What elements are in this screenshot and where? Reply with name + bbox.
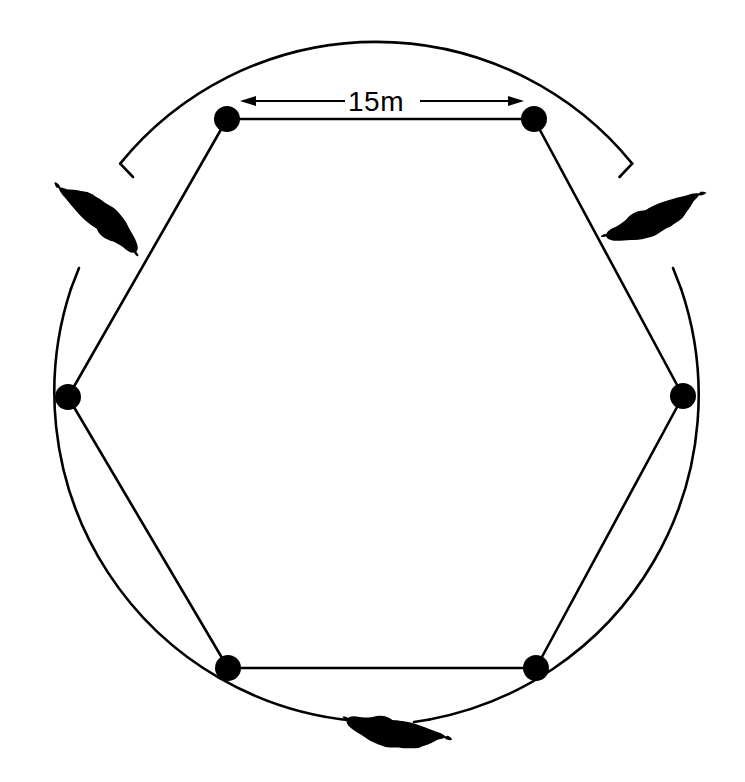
- circle-arc-right-lower: [430, 289, 699, 720]
- hexagon-circle-figure: 15m: [0, 0, 745, 782]
- blob-bottom[interactable]: [342, 714, 453, 750]
- inscribed-hexagon: [68, 119, 683, 668]
- circle-stub-ur-top: [620, 164, 633, 177]
- dimension-label-15m: 15m: [348, 86, 404, 117]
- circle-stub-ul-top: [120, 164, 133, 177]
- vertex-right-dot[interactable]: [670, 383, 696, 409]
- vertex-bottom-right-dot[interactable]: [523, 655, 549, 681]
- hexagon-vertex-group: [55, 106, 696, 681]
- circle-stub-ur-bottom: [673, 268, 681, 289]
- blob-upper-left[interactable]: [44, 174, 154, 258]
- circle-stub-bottom-right: [414, 720, 430, 723]
- vertex-top-left-dot[interactable]: [214, 106, 240, 132]
- circle-stub-ul-bottom: [71, 268, 79, 289]
- vertex-bottom-left-dot[interactable]: [215, 655, 241, 681]
- circle-arc-left-lower: [54, 289, 352, 721]
- diagram-canvas: 15m: [0, 0, 745, 782]
- blob-upper-right[interactable]: [600, 175, 712, 261]
- dimension-right-arrowhead: [508, 96, 524, 106]
- dimension-left-arrowhead: [240, 96, 256, 106]
- vertex-top-right-dot[interactable]: [521, 106, 547, 132]
- vertex-left-dot[interactable]: [55, 384, 81, 410]
- outer-circle: [54, 42, 698, 723]
